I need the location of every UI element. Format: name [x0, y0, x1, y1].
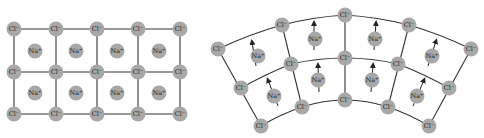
chloride-ion: Cl⁻ — [338, 51, 353, 66]
chloride-ion-label: Cl⁻ — [9, 68, 19, 76]
chloride-ion-label: Cl⁻ — [51, 110, 61, 118]
sodium-ion-label: Na⁺ — [29, 47, 42, 55]
sodium-ion-label: Na⁺ — [252, 52, 265, 60]
chloride-ion-label: Cl⁻ — [9, 25, 19, 33]
sodium-ion-label: Na⁺ — [369, 35, 382, 43]
chloride-ion-label: Cl⁻ — [92, 25, 102, 33]
chloride-ion: Cl⁻ — [131, 107, 146, 122]
sodium-ion-label: Na⁺ — [153, 89, 166, 97]
sodium-ion-label: Na⁺ — [111, 47, 124, 55]
chloride-ion-label: Cl⁻ — [175, 110, 185, 118]
chloride-ion-label: Cl⁻ — [277, 21, 287, 29]
chloride-ion: Cl⁻ — [234, 81, 249, 96]
chloride-ion-label: Cl⁻ — [424, 122, 434, 130]
chloride-ion-label: Cl⁻ — [444, 84, 454, 92]
chloride-ion: Cl⁻ — [90, 107, 105, 122]
chloride-ion-label: Cl⁻ — [256, 122, 266, 130]
chloride-ion: Cl⁻ — [442, 81, 457, 96]
chloride-ion-label: Cl⁻ — [286, 60, 296, 68]
chloride-ion-label: Cl⁻ — [51, 68, 61, 76]
sodium-ion: Na⁺ — [311, 73, 326, 88]
chloride-ion: Cl⁻ — [131, 65, 146, 80]
chloride-ion-label: Cl⁻ — [340, 96, 350, 104]
chloride-ion: Cl⁻ — [211, 42, 226, 57]
sodium-ion-label: Na⁺ — [411, 92, 424, 100]
chloride-ion: Cl⁻ — [49, 22, 64, 37]
chloride-ion: Cl⁻ — [49, 65, 64, 80]
chloride-ion-label: Cl⁻ — [383, 103, 393, 111]
chloride-ion: Cl⁻ — [173, 107, 188, 122]
sodium-ion: Na⁺ — [28, 86, 43, 101]
chloride-ion: Cl⁻ — [391, 57, 406, 72]
chloride-ion-label: Cl⁻ — [213, 45, 223, 53]
sodium-ion-label: Na⁺ — [111, 89, 124, 97]
chloride-ion: Cl⁻ — [338, 8, 353, 23]
sodium-ion-label: Na⁺ — [312, 76, 325, 84]
chloride-ion: Cl⁻ — [173, 22, 188, 37]
sodium-ion-label: Na⁺ — [29, 89, 42, 97]
sodium-ion: Na⁺ — [152, 44, 167, 59]
chloride-ion-label: Cl⁻ — [175, 68, 185, 76]
sodium-ion: Na⁺ — [267, 89, 282, 104]
chloride-ion: Cl⁻ — [284, 57, 299, 72]
chloride-ion-label: Cl⁻ — [236, 84, 246, 92]
chloride-ion: Cl⁻ — [422, 119, 437, 134]
chloride-ion: Cl⁻ — [381, 100, 396, 115]
sodium-ion: Na⁺ — [308, 32, 323, 47]
chloride-ion: Cl⁻ — [7, 107, 22, 122]
chloride-ion-label: Cl⁻ — [92, 68, 102, 76]
chloride-ion-label: Cl⁻ — [297, 103, 307, 111]
bent-lattice-bonds — [218, 15, 471, 126]
chloride-ion: Cl⁻ — [464, 42, 479, 57]
chloride-ion: Cl⁻ — [173, 65, 188, 80]
sodium-ion: Na⁺ — [28, 44, 43, 59]
sodium-ion: Na⁺ — [69, 86, 84, 101]
sodium-ion: Na⁺ — [368, 32, 383, 47]
sodium-ion: Na⁺ — [425, 49, 440, 64]
sodium-ion: Na⁺ — [251, 49, 266, 64]
chloride-ion-label: Cl⁻ — [51, 25, 61, 33]
chloride-ion-label: Cl⁻ — [133, 68, 143, 76]
chloride-ion-label: Cl⁻ — [9, 110, 19, 118]
sodium-ion: Na⁺ — [110, 44, 125, 59]
chloride-ion: Cl⁻ — [90, 65, 105, 80]
chloride-ion: Cl⁻ — [131, 22, 146, 37]
chloride-ion-label: Cl⁻ — [92, 110, 102, 118]
chloride-ion-label: Cl⁻ — [340, 54, 350, 62]
chloride-ion-label: Cl⁻ — [133, 110, 143, 118]
chloride-ion: Cl⁻ — [7, 22, 22, 37]
sodium-ion-label: Na⁺ — [268, 92, 281, 100]
chloride-ion: Cl⁻ — [275, 18, 290, 33]
chloride-ion-label: Cl⁻ — [404, 21, 414, 29]
sodium-ion-label: Na⁺ — [366, 76, 379, 84]
sodium-ion: Na⁺ — [365, 73, 380, 88]
chloride-ion-label: Cl⁻ — [393, 60, 403, 68]
sodium-ion: Na⁺ — [110, 86, 125, 101]
chloride-ion: Cl⁻ — [90, 22, 105, 37]
sodium-ion-label: Na⁺ — [70, 47, 83, 55]
sodium-ion-label: Na⁺ — [309, 35, 322, 43]
chloride-ion-label: Cl⁻ — [133, 25, 143, 33]
sodium-ion-label: Na⁺ — [70, 89, 83, 97]
chloride-ion: Cl⁻ — [49, 107, 64, 122]
chloride-ion: Cl⁻ — [402, 18, 417, 33]
sodium-ion: Na⁺ — [410, 89, 425, 104]
chloride-ion: Cl⁻ — [295, 100, 310, 115]
sodium-ion: Na⁺ — [152, 86, 167, 101]
chloride-ion-label: Cl⁻ — [175, 25, 185, 33]
sodium-ion-label: Na⁺ — [153, 47, 166, 55]
chloride-ion: Cl⁻ — [7, 65, 22, 80]
chloride-ion-label: Cl⁻ — [340, 11, 350, 19]
chloride-ion: Cl⁻ — [338, 93, 353, 108]
chloride-ion-label: Cl⁻ — [466, 45, 476, 53]
nacl-diagram: Cl⁻Cl⁻Cl⁻Cl⁻Cl⁻Cl⁻Cl⁻Cl⁻Cl⁻Cl⁻Cl⁻Cl⁻Cl⁻C… — [0, 0, 484, 138]
chloride-ion: Cl⁻ — [254, 119, 269, 134]
sodium-ion-label: Na⁺ — [426, 52, 439, 60]
sodium-ion: Na⁺ — [69, 44, 84, 59]
